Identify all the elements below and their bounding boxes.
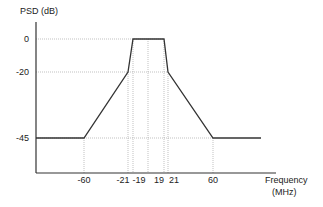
x-tick-minus-19: -19 [132, 175, 145, 185]
spectral-mask-line [36, 39, 261, 138]
x-tick-19: 19 [154, 175, 164, 185]
x-axis-unit: (MHz) [272, 187, 297, 197]
x-tick-60: 60 [208, 175, 218, 185]
x-tick-minus-21: -21 [116, 175, 129, 185]
x-tick-minus-60: -60 [77, 175, 90, 185]
y-axis-label: PSD (dB) [20, 6, 58, 16]
x-tick-21: 21 [169, 175, 179, 185]
y-tick-minus-45: -45 [16, 133, 29, 143]
x-axis-label: Frequency [265, 175, 308, 185]
y-tick-0: 0 [24, 34, 29, 44]
psd-mask-chart: PSD (dB) 0 -20 -45 -60 -21 -19 19 21 60 … [0, 0, 323, 207]
y-tick-minus-20: -20 [16, 67, 29, 77]
reference-gridlines [36, 39, 213, 173]
